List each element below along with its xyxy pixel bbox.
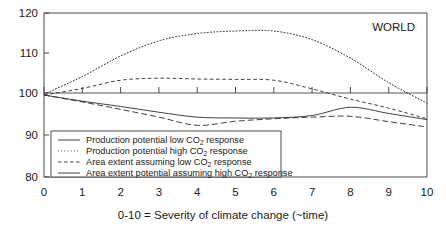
legend-label-2-prefix: Area extent assuming low CO	[86, 157, 208, 167]
x-tick-label-1: 1	[79, 186, 85, 198]
legend-label-0-prefix: Production potential low CO	[86, 135, 200, 145]
x-tick-label-8: 8	[347, 186, 353, 198]
chart-caption-text: 0-10 = Severity of climate change (~time…	[118, 209, 328, 221]
y-axis-labels: 120 110 100 90 80	[19, 7, 38, 183]
legend-label-1-prefix: Production potential high CO	[86, 146, 203, 156]
x-tick-label-6: 6	[271, 186, 277, 198]
legend-label-1-suffix: response	[207, 146, 247, 156]
legend-label-3-suffix: response	[252, 168, 292, 178]
legend-label-1: Production potential high CO2 response	[86, 146, 248, 157]
series-production-potential-low-co2	[44, 95, 427, 120]
legend-label-0-suffix: response	[204, 135, 244, 145]
y-tick-label-80: 80	[25, 171, 38, 183]
legend-label-3-prefix: Area extent potential assuming high CO	[86, 168, 248, 178]
y-tick-label-110: 110	[20, 47, 38, 59]
x-axis-labels: 0 1 2 3 4 5 6 7 8 9 10	[41, 186, 434, 198]
legend-label-2-suffix: response	[211, 157, 251, 167]
chart-figure: 120 110 100 90 80 0 1 2	[0, 0, 446, 231]
x-axis-ticks	[44, 87, 427, 93]
x-tick-label-5: 5	[232, 186, 238, 198]
y-tick-label-100: 100	[19, 87, 38, 99]
x-tick-label-3: 3	[156, 186, 162, 198]
y-tick-label-120: 120	[19, 7, 38, 19]
line-chart: 120 110 100 90 80 0 1 2	[0, 0, 446, 231]
region-annotation-label: WORLD	[372, 21, 415, 33]
x-tick-label-7: 7	[309, 186, 315, 198]
chart-legend: Production potential low CO2 response Pr…	[51, 131, 293, 179]
legend-label-3: Area extent potential assuming high CO2 …	[86, 168, 293, 179]
x-tick-label-9: 9	[385, 186, 391, 198]
x-tick-label-10: 10	[421, 186, 434, 198]
x-tick-label-2: 2	[117, 186, 123, 198]
legend-label-2: Area extent assuming low CO2 response	[86, 157, 252, 168]
y-tick-label-90: 90	[25, 129, 38, 141]
x-tick-label-0: 0	[41, 186, 47, 198]
data-series-group	[44, 30, 427, 127]
legend-label-0: Production potential low CO2 response	[86, 135, 244, 146]
x-tick-label-4: 4	[194, 186, 201, 198]
series-area-extent-low-co2	[44, 78, 427, 119]
chart-caption: 0-10 = Severity of climate change (~time…	[0, 205, 446, 223]
series-area-extent-high-co2	[44, 95, 427, 127]
